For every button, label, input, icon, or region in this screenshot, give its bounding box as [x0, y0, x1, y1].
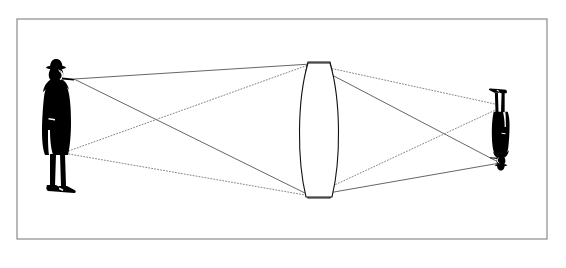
image-trouser-gap: [499, 94, 501, 110]
diagram-canvas: Converging lens ray diagram A standing m…: [0, 0, 566, 268]
man-coat: [42, 79, 71, 155]
trouser-gap: [56, 158, 59, 184]
image-man-coat: [492, 112, 510, 158]
lens-body: [299, 63, 338, 197]
biconvex-lens: [299, 62, 338, 198]
lens-ray-diagram: Converging lens ray diagram A standing m…: [0, 0, 566, 268]
figure-border: [17, 19, 547, 239]
